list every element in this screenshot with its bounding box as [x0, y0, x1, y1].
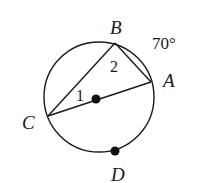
center-dot	[92, 95, 101, 104]
point-d-dot	[111, 147, 120, 156]
label-b: B	[110, 17, 122, 38]
arc-measure-label: 70°	[152, 34, 176, 53]
angle-2-label: 2	[110, 58, 118, 75]
label-d: D	[110, 164, 125, 183]
segment-ba	[115, 43, 151, 82]
angle-1-label: 1	[76, 87, 84, 104]
label-a: A	[161, 70, 175, 91]
geometry-diagram: B A C D 70° 1 2	[0, 0, 202, 183]
label-c: C	[22, 112, 35, 133]
